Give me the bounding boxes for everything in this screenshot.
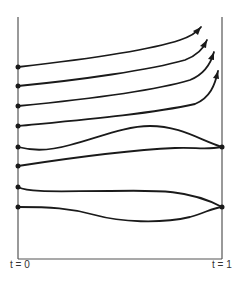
trajectory-5	[18, 126, 222, 150]
arrowhead-icon	[200, 40, 207, 48]
start-point	[16, 65, 21, 70]
start-point	[16, 84, 21, 89]
start-point	[16, 145, 21, 150]
start-point	[16, 205, 21, 210]
trajectory-8	[18, 207, 222, 221]
trajectory-diagram	[0, 0, 238, 284]
trajectory-1	[18, 27, 201, 67]
start-point	[16, 104, 21, 109]
start-point	[16, 124, 21, 129]
end-point	[220, 205, 225, 210]
trajectory-7	[18, 187, 222, 207]
arrowhead-icon	[213, 71, 219, 79]
end-point	[220, 145, 225, 150]
label-t-one: t = 1	[212, 259, 232, 270]
label-t-zero: t = 0	[10, 259, 30, 270]
arrowhead-icon	[208, 52, 214, 60]
start-point	[16, 185, 21, 190]
trajectory-4	[18, 71, 218, 126]
start-point	[16, 164, 21, 169]
